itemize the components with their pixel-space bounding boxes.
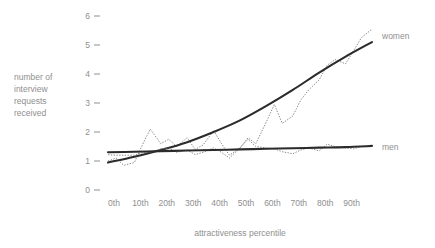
series-line-women-trend <box>108 42 372 162</box>
y-axis-tick-labels: 0123456 <box>85 11 90 195</box>
x-axis-tick-label: 10th <box>132 198 149 208</box>
x-axis-tick-label: 60th <box>264 198 281 208</box>
x-axis-tick-label: 0th <box>108 198 120 208</box>
x-axis-tick-labels: 0th10th20th30th40th50th60th70th80th90th <box>108 198 360 208</box>
x-axis-tick-label: 40th <box>211 198 228 208</box>
y-axis-tick-label: 6 <box>85 11 90 21</box>
attractiveness-interview-requests-chart: 0123456 0th10th20th30th40th50th60th70th8… <box>0 0 435 248</box>
y-axis-title-line: received <box>14 108 46 118</box>
y-axis-title-line: interview <box>14 84 48 94</box>
x-axis-title: attractiveness percentile <box>194 228 286 238</box>
y-axis-tick-label: 4 <box>85 69 90 79</box>
x-axis-tick-label: 20th <box>159 198 176 208</box>
series-line-men-trend <box>108 146 372 152</box>
series-label-men: men <box>382 142 399 152</box>
x-axis-tick-label: 50th <box>238 198 255 208</box>
x-axis-tick-label: 30th <box>185 198 202 208</box>
chart-container: 0123456 0th10th20th30th40th50th60th70th8… <box>0 0 435 248</box>
y-axis-tick-marks <box>94 16 100 190</box>
y-axis-title: number ofinterviewrequestsreceived <box>14 72 53 118</box>
y-axis-tick-label: 1 <box>85 156 90 166</box>
y-axis-title-line: requests <box>14 96 47 106</box>
y-axis-tick-label: 0 <box>85 185 90 195</box>
series-line-women <box>108 29 372 165</box>
x-axis-tick-label: 90th <box>343 198 360 208</box>
series-paths <box>108 29 372 165</box>
x-axis-tick-label: 70th <box>291 198 308 208</box>
x-axis-tick-label: 80th <box>317 198 334 208</box>
y-axis-title-line: number of <box>14 72 53 82</box>
y-axis-tick-label: 3 <box>85 98 90 108</box>
series-inline-labels: womenmen <box>381 31 410 151</box>
y-axis-tick-label: 2 <box>85 127 90 137</box>
y-axis-tick-label: 5 <box>85 40 90 50</box>
series-label-women: women <box>381 31 410 41</box>
